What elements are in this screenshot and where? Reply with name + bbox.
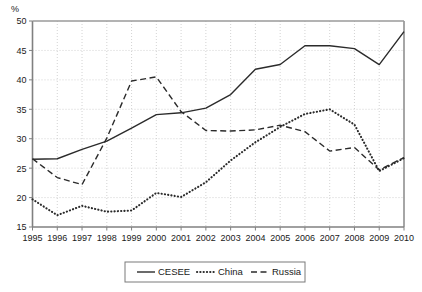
x-tick-label: 1998 (97, 233, 117, 243)
y-tick-label: 15 (16, 222, 26, 232)
x-tick-label: 2000 (146, 233, 166, 243)
x-tick-label: 1997 (72, 233, 92, 243)
x-tick-label: 2006 (295, 233, 315, 243)
chart-legend: CESEEChinaRussia (125, 262, 305, 282)
x-tick-label: 2003 (221, 233, 241, 243)
chart-container: % 1520253035404550 199519961997199819992… (0, 0, 422, 292)
chart-background (0, 0, 422, 292)
x-tick-label: 2002 (196, 233, 216, 243)
y-tick-label: 30 (16, 134, 26, 144)
x-tick-label: 1995 (22, 233, 42, 243)
x-tick-label: 2007 (320, 233, 340, 243)
legend-label-cesee: CESEE (158, 266, 190, 277)
x-tick-label: 2008 (344, 233, 364, 243)
x-tick-label: 2001 (171, 233, 191, 243)
x-tick-label: 1999 (122, 233, 142, 243)
y-tick-label: 40 (16, 75, 26, 85)
line-chart: % 1520253035404550 199519961997199819992… (0, 0, 422, 292)
y-tick-label: 50 (16, 16, 26, 26)
y-axis-unit-label: % (11, 4, 19, 14)
y-tick-label: 45 (16, 46, 26, 56)
y-tick-label: 25 (16, 164, 26, 174)
y-tick-label: 35 (16, 105, 26, 115)
x-tick-label: 2009 (369, 233, 389, 243)
y-tick-label: 20 (16, 193, 26, 203)
x-tick-label: 2010 (394, 233, 414, 243)
legend-label-china: China (218, 266, 244, 277)
x-tick-label: 1996 (47, 233, 67, 243)
x-tick-label: 2005 (270, 233, 290, 243)
legend-label-russia: Russia (272, 266, 302, 277)
x-tick-label: 2004 (245, 233, 265, 243)
